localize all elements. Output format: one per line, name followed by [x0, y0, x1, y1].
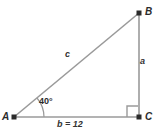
vertex-label-c: C [145, 112, 152, 122]
vertex-dot-b [137, 11, 142, 16]
triangle-figure: A B C a c b = 12 40° [0, 0, 156, 135]
vertex-label-b: B [145, 7, 152, 17]
vertex-label-a: A [2, 112, 9, 122]
side-label-a: a [140, 57, 145, 66]
vertex-dot-a [12, 115, 17, 120]
side-c-line [14, 13, 139, 117]
triangle-drawing [0, 0, 156, 135]
right-angle-marker-icon [127, 106, 138, 117]
angle-label-a: 40° [39, 97, 53, 106]
vertex-dot-c [137, 115, 142, 120]
side-label-c: c [65, 50, 70, 59]
side-label-b: b = 12 [57, 120, 83, 129]
